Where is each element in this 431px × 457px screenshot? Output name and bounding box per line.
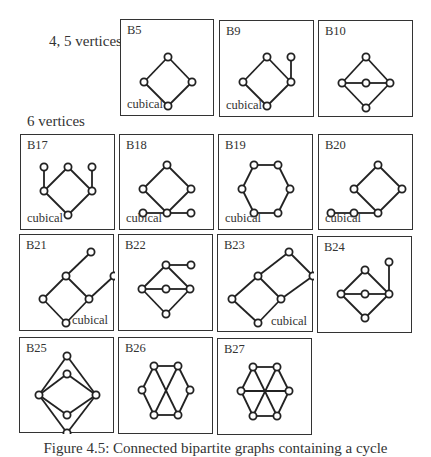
graph-vertex [188,78,195,85]
graph-edge [67,374,96,395]
graph-vertex [228,295,235,302]
graph-note-label: cubical [126,211,162,226]
graph-note-label: cubical [325,211,361,226]
graph-edge [354,165,378,189]
graph-vertex [162,285,169,292]
graph-edge [378,189,402,213]
graph-edge [378,165,402,189]
graph-vertex [92,391,99,398]
graph-vertex [362,79,369,86]
graph-vertex [263,102,270,109]
graph-box-b17: B17cubical [20,134,115,230]
graph-vertex [374,209,381,216]
graph-vertex [285,387,292,394]
graph-vertex [162,261,169,268]
graph-box-b18: B18cubical [119,134,214,230]
graph-box-b22: B22 [118,234,213,331]
graph-edge [341,294,365,318]
graph-vertex [140,78,147,85]
graph-vertex [309,272,314,279]
graph-vertex [88,187,95,194]
graph-vertex [162,310,169,317]
graph-note-label: cubical [271,314,307,329]
graph-edge [267,57,291,82]
graph-vertex [361,290,368,297]
graph-edge [365,294,389,318]
graph-id-label: B21 [26,238,47,253]
graph-edge [68,191,92,215]
graph-edge [168,57,192,82]
graph-vertex [186,285,193,292]
graph-vertex [110,272,115,279]
graph-box-b24: B24 [317,236,412,333]
graph-vertex [63,429,70,434]
graph-id-label: B5 [127,23,142,38]
graph-box-b9: B9cubical [219,20,314,117]
graph-vertex [273,363,280,370]
group-label-6-vertices: 6 vertices [27,114,85,129]
graph-edge [366,83,390,108]
graph-vertex [150,362,157,369]
graph-vertex [287,53,294,60]
graph-vertex [88,163,95,170]
graph-id-label: B22 [125,238,146,253]
graph-id-label: B27 [224,342,245,357]
graph-vertex [254,272,261,279]
graph-vertex [40,187,47,194]
graph-vertex [385,290,392,297]
graph-vertex [187,209,194,216]
graph-vertex [338,79,345,86]
graph-id-label: B17 [27,138,48,153]
graph-vertex [138,285,145,292]
graph-edge [66,276,89,299]
graph-vertex [274,209,281,216]
graph-vertex [164,102,171,109]
graph-box-b10: B10 [318,20,413,117]
graph-edge [142,289,166,314]
graph-id-label: B9 [226,24,241,39]
graph-vertex [277,295,284,302]
graph-vertex [361,314,368,321]
graph-id-label: B24 [324,240,345,255]
graph-edge [39,395,67,415]
graph-id-label: B20 [325,138,346,153]
graph-box-b5: B5cubical [120,19,214,116]
graph-edge [281,276,313,299]
graph-vertex [361,266,368,273]
graph-edge [267,82,291,106]
graph-vertex [274,161,281,168]
graph-edge [167,189,191,213]
graph-id-label: B23 [224,238,245,253]
graph-vertex [337,290,344,297]
graph-vertex [287,78,294,85]
figure-caption: Figure 4.5: Connected bipartite graphs c… [0,440,431,457]
graph-edge [89,276,114,299]
graph-edge [143,189,167,213]
graph-vertex [286,185,293,192]
graph-note-label: cubical [127,97,163,112]
graph-edge [68,167,92,191]
graph-vertex [63,411,70,418]
graph-vertex [249,412,256,419]
graph-vertex [35,391,42,398]
graph-vertex [250,161,257,168]
graph-edge [39,374,67,395]
graph-edge [66,252,91,276]
graph-id-label: B25 [26,341,47,356]
graph-vertex [150,411,157,418]
graph-vertex [374,161,381,168]
graph-id-label: B10 [325,24,346,39]
graph-vertex [398,185,405,192]
graph-vertex [138,386,145,393]
graph-vertex [85,295,92,302]
graph-vertex [139,185,146,192]
graph-vertex [254,319,261,326]
graph-vertex [186,386,193,393]
graph-edge [167,165,191,189]
graph-vertex [87,248,94,255]
graph-vertex [273,412,280,419]
graph-edge [44,167,68,191]
graph-edge [258,252,289,276]
graph-edge [258,276,281,299]
graph-edge [67,356,96,395]
